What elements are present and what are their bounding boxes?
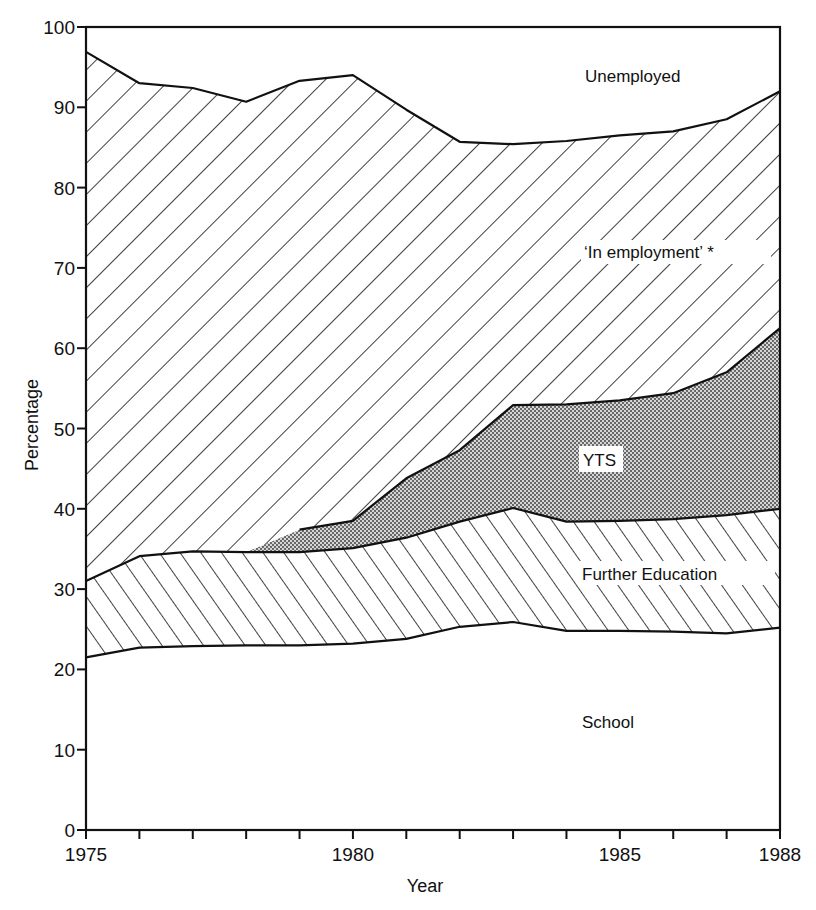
y-tick-label: 40 bbox=[54, 499, 75, 520]
label-in-employment: ‘In employment’ * bbox=[584, 243, 714, 262]
label-school: School bbox=[582, 713, 634, 732]
x-tick-label: 1988 bbox=[759, 844, 801, 865]
y-axis: 0102030405060708090100 bbox=[43, 17, 86, 841]
x-tick-label: 1975 bbox=[65, 844, 107, 865]
y-tick-label: 90 bbox=[54, 97, 75, 118]
y-tick-label: 10 bbox=[54, 740, 75, 761]
y-tick-label: 70 bbox=[54, 258, 75, 279]
y-tick-label: 60 bbox=[54, 338, 75, 359]
x-axis-title: Year bbox=[407, 876, 443, 896]
y-tick-label: 50 bbox=[54, 419, 75, 440]
y-tick-label: 100 bbox=[43, 17, 75, 38]
stacked-area-chart: 0102030405060708090100 1975198019851988 … bbox=[0, 0, 816, 910]
y-tick-label: 80 bbox=[54, 178, 75, 199]
y-tick-label: 20 bbox=[54, 659, 75, 680]
y-axis-title: Percentage bbox=[22, 379, 42, 471]
plot-areas bbox=[86, 27, 780, 830]
x-tick-label: 1985 bbox=[599, 844, 641, 865]
area-school bbox=[86, 622, 780, 830]
y-tick-label: 0 bbox=[64, 820, 75, 841]
x-axis: 1975198019851988 bbox=[65, 830, 801, 865]
y-tick-label: 30 bbox=[54, 579, 75, 600]
label-yts: YTS bbox=[583, 451, 616, 470]
label-further-education: Further Education bbox=[582, 565, 717, 584]
x-tick-label: 1980 bbox=[332, 844, 374, 865]
label-unemployed: Unemployed bbox=[585, 67, 680, 86]
